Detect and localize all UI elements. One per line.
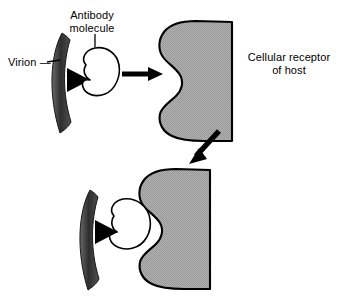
antibody-molecule-icon [109,199,150,249]
cellular-receptor-icon [159,21,232,141]
antibody-neutralization-diagram: Virion — Antibody molecule Cellular rece… [0,0,345,297]
virion-label: Virion — [8,56,51,69]
cellular-receptor-label: Cellular receptor of host [239,51,339,76]
antibody-molecule-icon [82,48,119,96]
binding-arrow [122,67,163,81]
diagram-canvas [0,0,345,297]
antibody-molecule-label: Antibody molecule [58,9,126,34]
